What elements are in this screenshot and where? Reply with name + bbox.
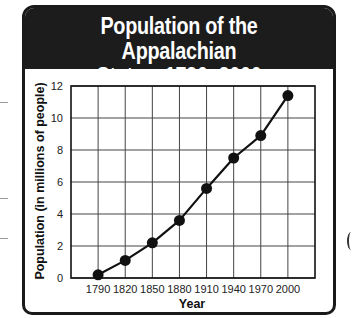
x-tick-label: 1850 — [140, 283, 164, 295]
x-tick-label: 1820 — [113, 283, 137, 295]
y-tick-label: 8 — [57, 144, 63, 156]
x-tick-label: 1910 — [194, 283, 218, 295]
data-point-marker — [120, 255, 131, 266]
y-tick-label: 12 — [51, 80, 63, 92]
data-point-marker — [174, 215, 185, 226]
data-point-marker — [201, 183, 212, 194]
x-tick-label: 1880 — [167, 283, 191, 295]
x-tick-label: 2000 — [276, 283, 300, 295]
data-line — [98, 96, 288, 275]
x-tick-label: 1790 — [86, 283, 110, 295]
data-point-marker — [255, 130, 266, 141]
y-tick-label: 10 — [51, 112, 63, 124]
x-tick-label: 1970 — [249, 283, 273, 295]
x-tick-label: 1940 — [221, 283, 245, 295]
y-axis-label: Population (in millions of people) — [33, 82, 47, 279]
data-point-marker — [147, 237, 158, 248]
data-point-marker — [228, 153, 239, 164]
data-point-marker — [282, 90, 293, 101]
y-tick-label: 2 — [57, 240, 63, 252]
line-chart: 0246810121790182018501880191019401970200… — [0, 0, 353, 318]
y-tick-label: 6 — [57, 176, 63, 188]
y-tick-label: 0 — [57, 272, 63, 284]
data-point-marker — [93, 269, 104, 280]
y-tick-label: 4 — [57, 208, 63, 220]
x-axis-label: Year — [179, 297, 206, 311]
